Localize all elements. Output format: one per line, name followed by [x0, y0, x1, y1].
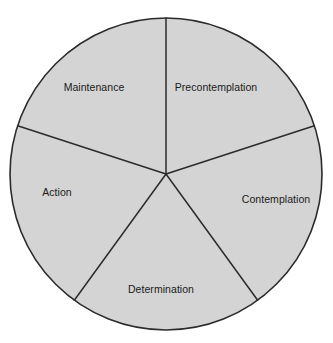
stages-of-change-diagram: Precontemplation Contemplation Determina… [0, 0, 333, 343]
wheel-graphic [0, 0, 333, 343]
